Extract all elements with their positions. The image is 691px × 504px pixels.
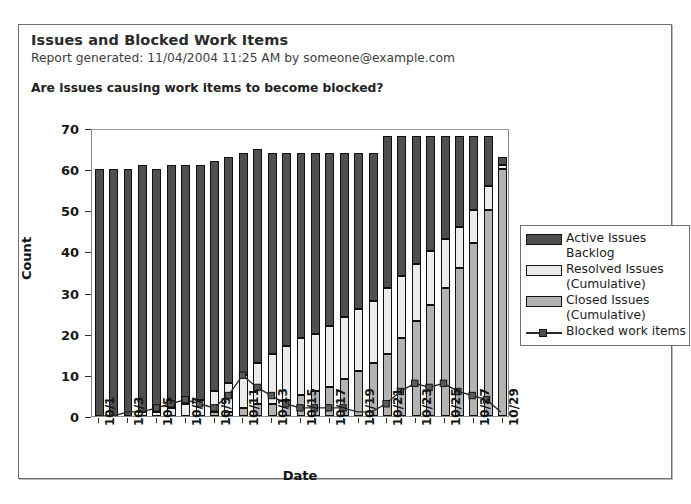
x-tick-label: 10/5 (161, 397, 175, 426)
x-tick-mark (228, 418, 229, 423)
bar-group (167, 128, 176, 416)
bar-segment (297, 153, 306, 338)
x-tick-mark (271, 418, 272, 423)
x-tick-label: 10/19 (363, 388, 377, 426)
x-tick-mark (257, 418, 258, 423)
bar-segment (498, 169, 507, 416)
y-tick-label: 40 (61, 245, 79, 260)
legend-item[interactable]: Active IssuesBacklog (526, 231, 685, 261)
bar-group (152, 128, 161, 416)
x-tick-mark (242, 418, 243, 423)
bar-group (383, 128, 392, 416)
bar-group (282, 128, 291, 416)
x-tick-mark (199, 418, 200, 423)
bar-segment (369, 153, 378, 301)
bar-segment (210, 161, 219, 391)
x-tick-mark (314, 418, 315, 423)
x-tick-mark (372, 418, 373, 423)
x-tick-label: 10/3 (132, 397, 146, 426)
bar-segment (210, 391, 219, 412)
bar-group (441, 128, 450, 416)
x-tick-mark (300, 418, 301, 423)
legend-item[interactable]: Closed Issues(Cumulative) (526, 293, 685, 323)
bar-group (354, 128, 363, 416)
bar-segment (239, 153, 248, 375)
legend-label-line: Backlog (566, 246, 646, 261)
bar-segment (138, 165, 147, 412)
bar-segment (455, 227, 464, 268)
x-tick-label: 10/11 (247, 388, 261, 426)
bar-group (455, 128, 464, 416)
report-generated-text: Report generated: 11/04/2004 11:25 AM by… (31, 50, 661, 67)
x-tick-label: 10/9 (219, 397, 233, 426)
x-tick-label: 10/29 (507, 388, 521, 426)
bar-segment (152, 412, 161, 416)
bar-group (181, 128, 190, 416)
x-tick-label: 10/15 (305, 388, 319, 426)
y-tick-label: 30 (61, 286, 79, 301)
bar-segment (469, 136, 478, 210)
bar-group (253, 128, 262, 416)
x-tick-mark (98, 418, 99, 423)
x-tick-mark (343, 418, 344, 423)
bar-segment (397, 276, 406, 338)
bar-segment (469, 210, 478, 243)
bar-group (412, 128, 421, 416)
page-title: Issues and Blocked Work Items (31, 31, 661, 49)
x-tick-mark (487, 418, 488, 423)
bar-segment (196, 165, 205, 400)
legend-label-line: (Cumulative) (566, 277, 664, 292)
bar-segment (340, 317, 349, 379)
bar-group (397, 128, 406, 416)
bar-group (268, 128, 277, 416)
legend-item[interactable]: Resolved Issues(Cumulative) (526, 262, 685, 292)
legend-item-label: Resolved Issues(Cumulative) (566, 262, 664, 292)
x-tick-label: 10/23 (420, 388, 434, 426)
bar-segment (383, 136, 392, 288)
bar-segment (441, 136, 450, 239)
x-tick-label: 10/7 (190, 397, 204, 426)
y-tick-label: 60 (61, 163, 79, 178)
bar-segment (484, 210, 493, 416)
bar-group (426, 128, 435, 416)
bar-segment (253, 149, 262, 363)
legend-label-line: Active Issues (566, 231, 646, 246)
x-tick-mark (185, 418, 186, 423)
legend-line-swatch-icon (526, 327, 562, 338)
bar-segment (282, 153, 291, 346)
bar-segment (369, 301, 378, 363)
x-tick-mark (401, 418, 402, 423)
x-tick-label: 10/1 (103, 397, 117, 426)
legend-color-swatch-icon (526, 265, 562, 276)
bar-segment (224, 157, 233, 383)
bar-segment (484, 186, 493, 211)
x-tick-mark (286, 418, 287, 423)
bar-group (95, 128, 104, 416)
bar-group (469, 128, 478, 416)
bar-segment (297, 338, 306, 396)
x-tick-mark (156, 418, 157, 423)
x-tick-mark (415, 418, 416, 423)
bar-segment (181, 165, 190, 404)
plot-area (91, 129, 509, 417)
x-tick-mark (386, 418, 387, 423)
x-tick-mark (329, 418, 330, 423)
y-tick-label: 10 (61, 368, 79, 383)
bar-segment (340, 153, 349, 318)
legend-label-line: Blocked work items (566, 324, 686, 339)
bar-segment (498, 165, 507, 169)
legend-label-line: Resolved Issues (566, 262, 664, 277)
bar-segment (441, 239, 450, 288)
x-tick-mark (113, 418, 114, 423)
chart: 010203040506070 Count 10/110/310/510/710… (19, 121, 673, 477)
bars-layer (92, 130, 508, 416)
legend-item[interactable]: Blocked work items (526, 324, 685, 339)
bar-segment (311, 334, 320, 392)
bar-group (124, 128, 133, 416)
bar-segment (311, 153, 320, 334)
bar-group (369, 128, 378, 416)
bar-group (484, 128, 493, 416)
bar-segment (210, 412, 219, 416)
bar-segment (95, 169, 104, 416)
bar-segment (455, 136, 464, 227)
